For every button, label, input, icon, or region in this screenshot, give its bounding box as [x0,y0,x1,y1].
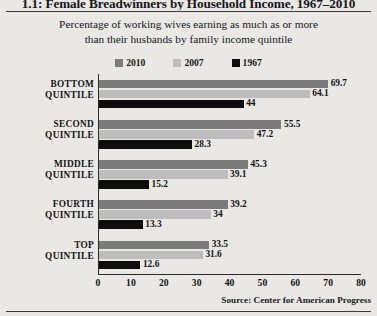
category-label-line: BOTTOM [0,79,94,90]
legend-label: 2010 [126,57,145,68]
legend-item-1967[interactable]: 1967 [232,57,262,68]
bar[interactable] [99,120,281,129]
bar-value-label: 47.2 [257,130,273,139]
bar[interactable] [99,130,254,139]
bar-value-label: 45.3 [250,160,266,169]
category-label-line: QUINTILE [0,90,94,101]
bar-value-label: 39.2 [230,200,246,209]
legend-item-2010[interactable]: 2010 [115,57,145,68]
bar[interactable] [99,180,149,189]
category-label-4: TOPQUINTILE [0,240,94,262]
category-label-line: SECOND [0,119,94,130]
x-tick-label: 40 [225,277,235,288]
category-label-line: TOP [0,240,94,251]
category-label-line: QUINTILE [0,210,94,221]
category-label-line: QUINTILE [0,251,94,262]
bar-row[interactable]: 13.3 [99,220,162,229]
plot-area: 69.764.14455.547.228.345.339.115.239.234… [98,74,361,275]
bar[interactable] [99,241,209,250]
bar[interactable] [99,140,192,149]
bar[interactable] [99,170,228,179]
source-note: Source: Center for American Progress [0,295,371,305]
x-tick-label: 70 [323,277,333,288]
category-label-0: BOTTOMQUINTILE [0,79,94,101]
bar-value-label: 13.3 [145,220,161,229]
bar-row[interactable]: 33.5 [99,241,228,250]
bar-value-label: 55.5 [284,120,300,129]
bar-value-label: 12.6 [143,260,159,269]
bar-value-label: 33.5 [212,240,228,249]
chart-legend: 201020071967 [0,57,377,68]
x-tick-label: 30 [192,277,202,288]
bar-row[interactable]: 34 [99,210,223,219]
bar-row[interactable]: 31.6 [99,251,222,260]
x-tick-label: 80 [356,277,366,288]
bar-row[interactable]: 69.7 [99,80,347,89]
bar-value-label: 34 [213,210,222,219]
bar-groups: 69.764.14455.547.228.345.339.115.239.234… [99,74,361,274]
bar-row[interactable]: 28.3 [99,140,211,149]
title-divider [6,11,371,12]
chart-subtitle-line-1: Percentage of working wives earning as m… [0,17,377,32]
legend-swatch-icon-2010 [115,59,123,67]
bar-row[interactable]: 55.5 [99,120,300,129]
bar-group: 39.23413.3 [99,195,361,235]
x-axis-ticks: 01020304050607080 [98,277,361,291]
category-label-line: FOURTH [0,199,94,210]
bar-value-label: 44 [246,99,255,108]
page-title: 1.1: Female Breadwinners by Household In… [0,0,377,10]
x-tick-label: 10 [126,277,136,288]
bar[interactable] [99,200,228,209]
category-label-line: MIDDLE [0,159,94,170]
bar-row[interactable]: 15.2 [99,180,168,189]
bar-value-label: 15.2 [151,180,167,189]
bar[interactable] [99,251,203,260]
chart-subtitle: Percentage of working wives earning as m… [0,17,377,47]
x-tick-label: 50 [258,277,268,288]
bar-value-label: 64.1 [312,89,328,98]
legend-swatch-icon-2007 [173,59,181,67]
bar[interactable] [99,160,248,169]
category-label-3: FOURTHQUINTILE [0,199,94,221]
bar-group: 69.764.144 [99,74,361,114]
bar-value-label: 69.7 [331,79,347,88]
bar-row[interactable]: 64.1 [99,90,329,99]
category-label-1: SECONDQUINTILE [0,119,94,141]
legend-item-2007[interactable]: 2007 [173,57,203,68]
bar-row[interactable]: 47.2 [99,130,273,139]
bar-row[interactable]: 39.1 [99,170,246,179]
legend-label: 1967 [243,57,262,68]
chart-subtitle-line-2: than their husbands by family income qui… [0,32,377,47]
bar-value-label: 39.1 [230,170,246,179]
bottom-divider [6,311,371,312]
bar-row[interactable]: 44 [99,100,256,109]
bar[interactable] [99,261,140,270]
bar-group: 55.547.228.3 [99,114,361,154]
bar-value-label: 31.6 [205,250,221,259]
legend-swatch-icon-1967 [232,59,240,67]
bar-value-label: 28.3 [195,140,211,149]
bar-group: 33.531.612.6 [99,235,361,275]
category-label-line: QUINTILE [0,130,94,141]
category-label-2: MIDDLEQUINTILE [0,159,94,181]
bar-row[interactable]: 39.2 [99,200,247,209]
x-tick-label: 0 [96,277,101,288]
bar[interactable] [99,210,211,219]
bar[interactable] [99,90,310,99]
bar[interactable] [99,220,143,229]
category-label-line: QUINTILE [0,170,94,181]
category-axis-labels: BOTTOMQUINTILESECONDQUINTILEMIDDLEQUINTI… [0,74,94,275]
bar[interactable] [99,100,244,109]
legend-label: 2007 [184,57,203,68]
x-tick-label: 60 [290,277,300,288]
bar[interactable] [99,80,328,89]
bar-row[interactable]: 12.6 [99,261,159,270]
bar-group: 45.339.115.2 [99,154,361,194]
x-tick-label: 20 [159,277,169,288]
bar-row[interactable]: 45.3 [99,160,267,169]
